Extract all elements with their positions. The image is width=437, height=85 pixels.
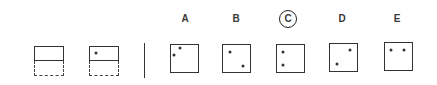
option-label: C bbox=[284, 14, 291, 24]
punch-hole-dot bbox=[95, 52, 98, 55]
punch-hole-dot bbox=[229, 51, 232, 54]
option-label: B bbox=[232, 14, 239, 24]
punch-hole-dot bbox=[349, 49, 352, 52]
figure-top-half-solid bbox=[34, 46, 64, 61]
option-box bbox=[170, 44, 199, 73]
puzzle-diagram: A B C D E bbox=[0, 0, 437, 85]
option-box bbox=[384, 42, 413, 71]
option-box bbox=[276, 44, 305, 73]
punch-hole-dot bbox=[282, 64, 285, 67]
punch-hole-dot bbox=[179, 47, 182, 50]
option-label: D bbox=[338, 14, 345, 24]
punch-hole-dot bbox=[336, 63, 339, 66]
figure-bottom-half-dashed bbox=[34, 61, 64, 76]
option-label: E bbox=[394, 14, 401, 24]
option-box bbox=[329, 43, 358, 72]
punch-hole-dot bbox=[282, 51, 285, 54]
punch-hole-dot bbox=[242, 65, 245, 68]
option-label: A bbox=[181, 14, 188, 24]
figure-top-half-solid bbox=[89, 46, 119, 61]
punch-hole-dot bbox=[390, 49, 393, 52]
divider-line bbox=[144, 43, 145, 78]
figure-bottom-half-dashed bbox=[89, 61, 119, 76]
punch-hole-dot bbox=[173, 54, 176, 57]
punch-hole-dot bbox=[403, 49, 406, 52]
option-box bbox=[222, 44, 251, 73]
